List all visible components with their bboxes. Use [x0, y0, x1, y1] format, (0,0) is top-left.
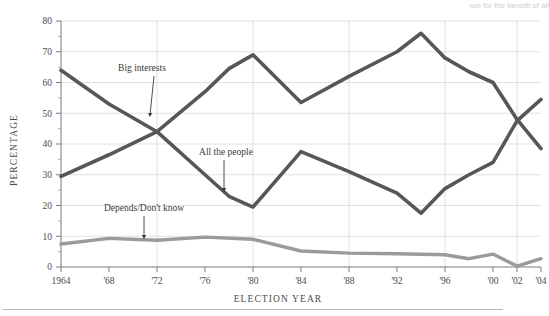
x-tick-label: '02	[511, 276, 522, 286]
y-tick-label: 10	[43, 232, 53, 242]
x-tick-label: '76	[199, 276, 210, 286]
y-tick-label: 30	[43, 170, 53, 180]
x-tick-label: '96	[439, 276, 450, 286]
x-tick-label: '84	[295, 276, 306, 286]
series-line	[61, 237, 541, 266]
annotation-label: Depends/Don't know	[104, 203, 184, 213]
x-axis-tick-labels: 1964'68'72'76'80'84'88'92'96'00'02'04	[52, 276, 547, 286]
x-tick-label: '80	[247, 276, 258, 286]
y-axis-tick-labels: 01020304050607080	[43, 16, 53, 272]
x-tick-label: '68	[103, 276, 114, 286]
y-tick-label: 60	[43, 78, 53, 88]
series-line	[61, 33, 541, 176]
y-tick-label: 70	[43, 47, 53, 57]
x-tick-label: '92	[391, 276, 402, 286]
x-tick-label: '88	[343, 276, 354, 286]
line-chart: 01020304050607080 1964'68'72'76'80'84'88…	[0, 0, 549, 316]
y-tick-label: 0	[47, 262, 52, 272]
annotation-label: All the people	[199, 147, 253, 157]
x-tick-label: '00	[487, 276, 498, 286]
annotation-label: Big interests	[118, 63, 166, 73]
y-tick-label: 50	[43, 109, 53, 119]
annotation-arrow	[150, 76, 154, 115]
bottom-rule	[3, 309, 503, 310]
x-tick-label: 1964	[52, 276, 71, 286]
x-axis-title: ELECTION YEAR	[234, 294, 323, 304]
x-tick-label: '72	[151, 276, 162, 286]
x-tick-label: '04	[535, 276, 546, 286]
y-tick-label: 20	[43, 201, 53, 211]
figure-container: run for the benefit of all 0102030405060…	[0, 0, 549, 316]
y-tick-label: 40	[43, 139, 53, 149]
y-tick-label: 80	[43, 16, 53, 26]
y-axis-title: PERCENTAGE	[9, 114, 19, 186]
